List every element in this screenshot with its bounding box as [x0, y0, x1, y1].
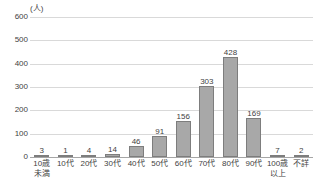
- x-axis-tick-label: 不詳: [289, 159, 313, 178]
- bar-value-label: 169: [247, 109, 260, 118]
- x-axis-tick-label-line: 60代: [171, 159, 195, 169]
- y-axis-tick-label: 0: [2, 153, 28, 161]
- bar-slot: 7: [266, 17, 290, 157]
- bars-layer: 31414469115630342816972: [30, 17, 313, 157]
- bar-slot: 91: [148, 17, 172, 157]
- bar-value-label: 14: [108, 145, 117, 154]
- bar-slot: 1: [54, 17, 78, 157]
- y-axis-tick-label: 400: [2, 60, 28, 68]
- bar-value-label: 7: [275, 146, 279, 155]
- bar-value-label: 428: [224, 48, 237, 57]
- bar-slot: 46: [124, 17, 148, 157]
- bar[interactable]: 46: [129, 146, 144, 157]
- bar-value-label: 3: [40, 146, 44, 155]
- y-axis-tick-label: 600: [2, 13, 28, 21]
- bar-value-label: 156: [177, 112, 190, 121]
- bar-value-label: 46: [132, 137, 141, 146]
- bar[interactable]: 4: [81, 155, 96, 157]
- bar[interactable]: 156: [176, 121, 191, 157]
- bar[interactable]: 1: [58, 155, 73, 157]
- y-axis-unit-label: (人): [30, 4, 43, 14]
- x-axis-tick-label: 30代: [101, 159, 125, 178]
- bar-value-label: 4: [87, 146, 91, 155]
- x-axis-tick-label: 70代: [195, 159, 219, 178]
- bar[interactable]: 3: [34, 155, 49, 157]
- x-axis-tick-label-line: 不詳: [289, 159, 313, 169]
- x-axis-tick-label-line: 40代: [124, 159, 148, 169]
- bar-value-label: 2: [299, 146, 303, 155]
- x-axis-tick-label-line: 20代: [77, 159, 101, 169]
- x-axis-tick-label-line: 10代: [54, 159, 78, 169]
- x-axis-tick-label-line: 70代: [195, 159, 219, 169]
- bar[interactable]: 91: [152, 136, 167, 157]
- bar[interactable]: 7: [270, 155, 285, 157]
- bar-value-label: 91: [155, 127, 164, 136]
- bar-slot: 2: [289, 17, 313, 157]
- x-axis-tick-label-line: 100歳: [266, 159, 290, 169]
- x-axis-tick-label: 20代: [77, 159, 101, 178]
- y-axis-tick-label: 300: [2, 83, 28, 91]
- bar[interactable]: 169: [246, 118, 261, 157]
- x-axis-tick-label-line: 以上: [266, 169, 290, 179]
- bar-slot: 428: [219, 17, 243, 157]
- x-axis-tick-labels: 10歳未満10代20代30代40代50代60代70代80代90代100歳以上不詳: [30, 159, 313, 178]
- x-axis-tick-label-line: 未満: [30, 169, 54, 179]
- bar-value-label: 1: [63, 146, 67, 155]
- bar[interactable]: 303: [199, 86, 214, 157]
- x-axis-tick-label: 90代: [242, 159, 266, 178]
- bar-chart: (人) 6005004003002001000 3141446911563034…: [0, 0, 316, 192]
- x-axis-tick-label: 80代: [219, 159, 243, 178]
- y-axis-tick-labels: 6005004003002001000: [0, 17, 28, 157]
- bar-value-label: 303: [200, 77, 213, 86]
- x-axis-tick-label: 100歳以上: [266, 159, 290, 178]
- bar-slot: 169: [242, 17, 266, 157]
- bar[interactable]: 428: [223, 57, 238, 157]
- x-axis-tick-label-line: 10歳: [30, 159, 54, 169]
- x-axis-tick-label: 60代: [171, 159, 195, 178]
- bar-slot: 14: [101, 17, 125, 157]
- x-axis-tick-label-line: 90代: [242, 159, 266, 169]
- x-axis-tick-label: 40代: [124, 159, 148, 178]
- y-axis-tick-label: 100: [2, 130, 28, 138]
- y-axis-tick-label: 200: [2, 106, 28, 114]
- bar-slot: 303: [195, 17, 219, 157]
- y-axis-tick-label: 500: [2, 36, 28, 44]
- x-axis-tick-label: 50代: [148, 159, 172, 178]
- bar-slot: 156: [171, 17, 195, 157]
- x-axis-tick-label-line: 80代: [219, 159, 243, 169]
- x-axis-tick-label: 10歳未満: [30, 159, 54, 178]
- bar[interactable]: 14: [105, 154, 120, 157]
- bar[interactable]: 2: [294, 155, 309, 157]
- x-axis-tick-label-line: 50代: [148, 159, 172, 169]
- x-axis-baseline: [30, 157, 313, 158]
- plot-area: 31414469115630342816972: [30, 17, 313, 157]
- x-axis-tick-label-line: 30代: [101, 159, 125, 169]
- x-axis-tick-label: 10代: [54, 159, 78, 178]
- bar-slot: 4: [77, 17, 101, 157]
- bar-slot: 3: [30, 17, 54, 157]
